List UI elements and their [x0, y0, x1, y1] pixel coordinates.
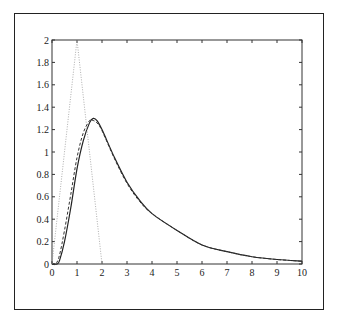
axis-ticks: 01234567891000.20.40.60.811.21.41.61.82	[37, 35, 308, 279]
solid-curve	[52, 118, 302, 264]
dotted-triangle	[52, 40, 102, 264]
x-tick-label: 7	[225, 267, 230, 278]
x-tick-label: 1	[75, 267, 80, 278]
x-tick-label: 2	[100, 267, 105, 278]
x-tick-label: 8	[250, 267, 255, 278]
x-tick-label: 10	[297, 267, 307, 278]
y-tick-label: 1.8	[37, 57, 50, 68]
y-tick-label: 0.2	[37, 236, 50, 247]
x-tick-label: 6	[200, 267, 205, 278]
line-chart: 01234567891000.20.40.60.811.21.41.61.82	[0, 0, 337, 323]
y-tick-label: 0.6	[37, 191, 50, 202]
y-tick-label: 2	[44, 35, 49, 46]
y-tick-label: 0.4	[37, 214, 50, 225]
y-tick-label: 1.2	[37, 124, 50, 135]
y-tick-label: 1.4	[37, 102, 50, 113]
y-tick-label: 0	[44, 259, 49, 270]
x-tick-label: 5	[175, 267, 180, 278]
dashed-curve	[52, 119, 302, 264]
x-tick-label: 9	[275, 267, 280, 278]
plot-lines	[52, 40, 302, 265]
y-tick-label: 1	[44, 147, 49, 158]
x-tick-label: 3	[125, 267, 130, 278]
y-tick-label: 0.8	[37, 169, 50, 180]
x-tick-label: 4	[150, 267, 155, 278]
x-tick-label: 0	[50, 267, 55, 278]
y-tick-label: 1.6	[37, 79, 50, 90]
